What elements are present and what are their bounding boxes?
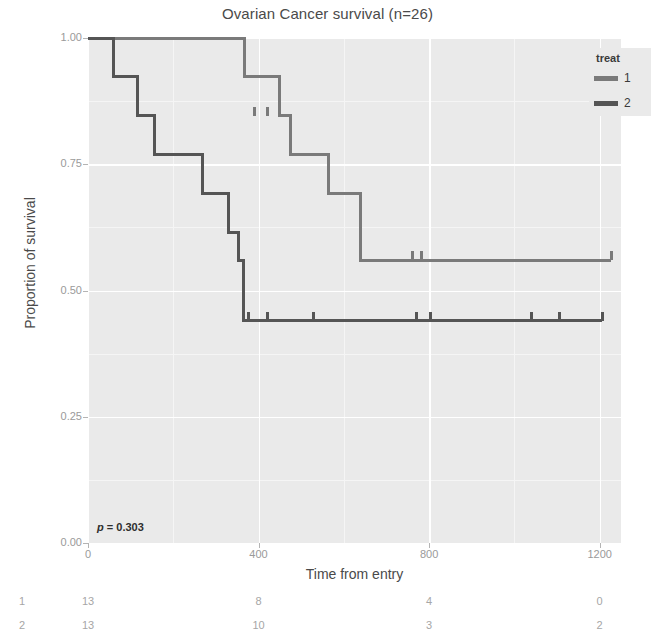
y-tick-mark	[83, 291, 88, 292]
survival-curve-segment-2	[112, 37, 115, 79]
survival-curve-segment-1	[243, 37, 246, 79]
gridline-minor-horizontal	[88, 101, 621, 102]
x-tick-label: 400	[229, 548, 289, 560]
survival-plot-figure: Ovarian Cancer survival (n=26) Proportio…	[0, 0, 655, 631]
gridline-minor-horizontal	[88, 354, 621, 355]
x-tick-mark	[259, 543, 260, 548]
gridline-horizontal	[88, 291, 621, 292]
survival-curve-segment-2	[153, 114, 156, 156]
y-tick-label: 0.75	[42, 157, 82, 169]
censor-tick-1	[253, 107, 256, 116]
censor-tick-1	[411, 251, 414, 260]
censor-tick-2	[312, 312, 315, 321]
censor-tick-1	[266, 107, 269, 116]
survival-curve-segment-2	[155, 153, 203, 156]
survival-curve-segment-1	[291, 153, 329, 156]
survival-curve-segment-2	[202, 192, 228, 195]
plot-panel	[88, 38, 621, 543]
censor-tick-2	[266, 312, 269, 321]
gridline-horizontal	[88, 417, 621, 418]
y-tick-mark	[83, 38, 88, 39]
gridline-vertical	[88, 38, 89, 543]
y-tick-mark	[83, 417, 88, 418]
risk-count-cell: 13	[68, 595, 108, 607]
survival-curve-segment-2	[113, 75, 137, 78]
x-tick-label: 1200	[570, 548, 630, 560]
gridline-vertical	[259, 38, 260, 543]
risk-row-label-2: 2	[10, 619, 34, 631]
survival-curve-segment-1	[359, 192, 362, 262]
survival-curve-segment-1	[278, 75, 281, 117]
survival-curve-segment-2	[136, 75, 139, 117]
risk-row-label-1: 1	[10, 595, 34, 607]
x-tick-label: 800	[399, 548, 459, 560]
legend-label: 1	[624, 71, 631, 85]
survival-curve-segment-2	[237, 231, 240, 262]
survival-curve-segment-1	[245, 75, 279, 78]
survival-curve-segment-2	[201, 153, 204, 195]
censor-tick-2	[601, 312, 604, 321]
risk-count-cell: 3	[409, 619, 449, 631]
legend-label: 2	[624, 96, 631, 110]
chart-title: Ovarian Cancer survival (n=26)	[0, 5, 655, 22]
number-at-risk-table: 1138402131032	[0, 585, 655, 631]
survival-curve-segment-1	[328, 192, 360, 195]
x-tick-mark	[88, 543, 89, 548]
y-tick-label: 1.00	[42, 31, 82, 43]
x-tick-mark	[600, 543, 601, 548]
risk-count-cell: 0	[580, 595, 620, 607]
gridline-horizontal	[88, 543, 621, 544]
risk-count-cell: 10	[239, 619, 279, 631]
censor-tick-2	[530, 312, 533, 321]
risk-count-cell: 8	[239, 595, 279, 607]
gridline-vertical	[429, 38, 430, 543]
p-value-annotation: p = 0.303	[97, 521, 144, 533]
gridline-horizontal	[88, 164, 621, 165]
legend-title: treat	[596, 52, 620, 64]
gridline-minor-horizontal	[88, 480, 621, 481]
legend-key-swatch	[594, 101, 618, 106]
y-tick-label: 0.25	[42, 410, 82, 422]
x-tick-mark	[429, 543, 430, 548]
y-tick-label: 0.50	[42, 284, 82, 296]
survival-curve-segment-2	[88, 37, 113, 40]
survival-curve-segment-2	[242, 259, 245, 323]
survival-curve-segment-2	[227, 192, 230, 234]
censor-tick-2	[415, 312, 418, 321]
gridline-minor-horizontal	[88, 227, 621, 228]
risk-count-cell: 4	[409, 595, 449, 607]
y-axis-label: Proportion of survival	[22, 138, 38, 388]
censor-tick-2	[558, 312, 561, 321]
x-axis-label: Time from entry	[88, 566, 621, 582]
risk-count-cell: 2	[580, 619, 620, 631]
legend-key-swatch	[594, 76, 618, 81]
y-tick-mark	[83, 164, 88, 165]
legend: treat 12	[589, 48, 651, 116]
x-tick-label: 0	[58, 548, 118, 560]
censor-tick-2	[247, 312, 250, 321]
survival-curve-segment-1	[289, 114, 292, 156]
survival-curve-segment-1	[327, 153, 330, 195]
censor-tick-1	[420, 251, 423, 260]
survival-curve-segment-2	[137, 114, 154, 117]
risk-count-cell: 13	[68, 619, 108, 631]
censor-tick-1	[610, 251, 613, 260]
censor-tick-2	[429, 312, 432, 321]
survival-curve-segment-2	[244, 319, 603, 322]
y-tick-label: 0.00	[42, 536, 82, 548]
survival-curve-segment-1	[360, 259, 611, 262]
